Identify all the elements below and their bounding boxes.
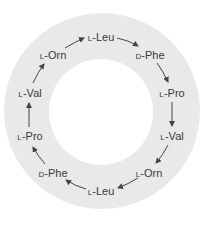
residue-orn-lower-right: L-Orn (136, 168, 163, 179)
residue-pro-right: L-Pro (159, 88, 184, 99)
arrow-val-to-orn-2 (33, 64, 44, 83)
residue-val-left: L-Val (18, 88, 41, 99)
residue-d-phe-upper-right: D-Phe (135, 50, 164, 61)
arrow-val-to-orn (156, 145, 168, 163)
arrow-leu-to-phe (117, 38, 138, 46)
residue-orn-upper-left: L-Orn (40, 50, 67, 61)
residue-d-phe-lower-left: D-Phe (38, 168, 67, 179)
residue-val-right: L-Val (160, 131, 183, 142)
residue-leu-top: L-Leu (88, 32, 115, 43)
residue-pro-left: L-Pro (17, 131, 42, 142)
arrow-orn-to-leu (118, 178, 138, 188)
arrow-phe-to-pro (157, 63, 168, 82)
arrow-phe-to-pro-2 (33, 147, 45, 164)
arrow-leu-to-phe-2 (66, 180, 86, 189)
arrow-orn-to-leu-2 (65, 38, 84, 48)
residue-leu-bottom: L-Leu (88, 186, 115, 197)
